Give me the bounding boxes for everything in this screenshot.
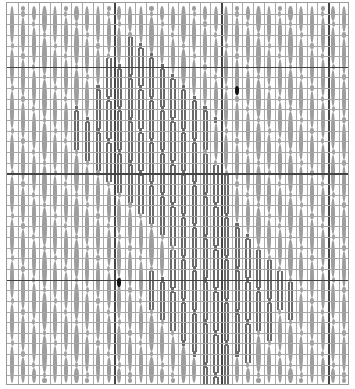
black-dot-marker: [235, 86, 239, 95]
grid-row-line: [7, 333, 348, 334]
light-stitch: [235, 6, 239, 11]
light-stitch: [256, 6, 260, 32]
grid-row-line: [7, 109, 348, 110]
grid-row-line: [7, 365, 348, 366]
grid-column-line: [200, 3, 201, 384]
grid-row-line: [7, 88, 348, 89]
grid-column-line: [189, 3, 190, 384]
grid-row-line: [7, 24, 348, 25]
grid-row-line: [7, 205, 348, 206]
light-stitch: [171, 6, 175, 32]
light-stitch: [107, 357, 111, 383]
grid-row-line: [7, 99, 348, 100]
light-stitch: [128, 6, 132, 32]
grid-row-line: [7, 173, 348, 175]
light-stitch: [214, 6, 218, 32]
grid-row-line: [7, 301, 348, 302]
grid-row-line: [7, 184, 348, 185]
grid-column-line: [146, 3, 147, 384]
grid-column-line: [232, 3, 233, 384]
light-stitch: [342, 378, 346, 383]
grid-column-line: [103, 3, 104, 384]
grid-column-line: [28, 3, 29, 384]
grid-row-line: [7, 354, 348, 355]
light-stitch: [149, 6, 153, 11]
grid-row-line: [7, 237, 348, 238]
grid-column-line: [296, 3, 297, 384]
grid-row-line: [7, 77, 348, 78]
light-stitch: [85, 6, 89, 32]
grid-column-line: [125, 3, 126, 384]
light-stitch: [64, 357, 68, 383]
light-stitch: [278, 6, 282, 11]
stitch-chart: [6, 2, 349, 385]
dark-stitch: [213, 377, 215, 384]
light-stitch: [321, 357, 325, 383]
light-stitch: [256, 378, 260, 383]
grid-column-line: [317, 3, 318, 384]
grid-row-line: [7, 67, 348, 69]
light-stitch: [107, 6, 111, 11]
grid-column-line: [50, 3, 51, 384]
grid-row-line: [7, 290, 348, 291]
grid-column-line: [157, 3, 158, 384]
light-stitch: [192, 6, 196, 11]
grid-column-line: [18, 3, 19, 384]
grid-column-line: [168, 3, 169, 384]
grid-column-line: [71, 3, 72, 384]
grid-row-line: [7, 343, 348, 344]
grid-row-line: [7, 322, 348, 323]
grid-row-line: [7, 226, 348, 227]
grid-column-line: [275, 3, 276, 384]
grid-row-line: [7, 258, 348, 259]
grid-column-line: [339, 3, 340, 384]
grid-row-line: [7, 280, 348, 282]
grid-column-line: [39, 3, 40, 384]
light-stitch: [21, 357, 25, 383]
grid-row-line: [7, 375, 348, 376]
light-stitch: [21, 6, 25, 11]
grid-row-line: [7, 163, 348, 164]
grid-row-line: [7, 216, 348, 217]
grid-column-line: [93, 3, 94, 384]
grid-column-line: [178, 3, 179, 384]
light-stitch: [85, 378, 89, 383]
grid-row-line: [7, 195, 348, 196]
grid-row-line: [7, 56, 348, 57]
grid-column-line: [82, 3, 83, 384]
light-stitch: [278, 357, 282, 383]
light-stitch: [299, 378, 303, 383]
grid-row-line: [7, 14, 348, 15]
grid-column-line: [210, 3, 211, 384]
dark-stitch: [217, 377, 219, 384]
grid-column-line: [242, 3, 243, 384]
grid-row-line: [7, 46, 348, 47]
grid-row-line: [7, 141, 348, 142]
light-stitch: [235, 357, 239, 383]
light-stitch: [192, 357, 196, 383]
grid-column-line: [285, 3, 286, 384]
light-stitch: [42, 6, 46, 32]
grid-row-line: [7, 35, 348, 36]
light-stitch: [64, 6, 68, 11]
grid-column-line: [307, 3, 308, 384]
light-stitch: [149, 357, 153, 383]
grid-row-line: [7, 152, 348, 153]
grid-column-line: [135, 3, 136, 384]
grid-row-line: [7, 312, 348, 313]
light-stitch: [128, 378, 132, 383]
grid-column-line: [264, 3, 265, 384]
grid-row-line: [7, 248, 348, 249]
light-stitch: [342, 6, 346, 32]
light-stitch: [299, 6, 303, 32]
grid-row-line: [7, 120, 348, 121]
grid-column-line: [61, 3, 62, 384]
light-stitch: [42, 378, 46, 383]
light-stitch: [321, 6, 325, 11]
grid-column-line: [114, 3, 116, 384]
light-stitch: [171, 378, 175, 383]
grid-column-line: [221, 3, 223, 384]
grid-column-line: [253, 3, 254, 384]
grid-row-line: [7, 131, 348, 132]
grid-row-line: [7, 269, 348, 270]
